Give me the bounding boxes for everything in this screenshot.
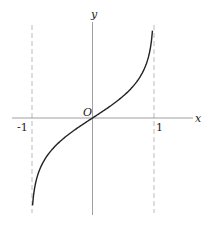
origin-label: O <box>83 106 92 119</box>
artanh-graph: y x O -1 1 <box>0 0 220 229</box>
tick-label-neg-one: -1 <box>17 121 28 134</box>
y-axis-label: y <box>90 8 98 21</box>
x-axis-label: x <box>195 112 202 125</box>
tick-label-one: 1 <box>156 121 163 134</box>
